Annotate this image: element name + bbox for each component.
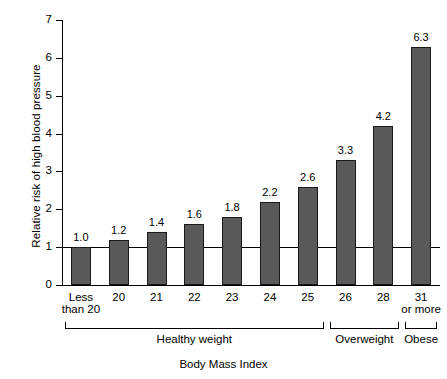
y-axis-line	[62, 20, 63, 286]
bar-value-label: 6.3	[401, 32, 441, 43]
bar[interactable]	[411, 47, 431, 286]
bar-value-label: 1.2	[99, 225, 139, 236]
y-axis-tick	[56, 134, 62, 135]
y-axis-tick-label: 4	[38, 128, 52, 140]
bar-value-label: 2.2	[250, 187, 290, 198]
y-axis-tick	[56, 20, 62, 21]
y-axis-tick-label: 2	[38, 203, 52, 215]
bar[interactable]	[71, 247, 91, 285]
category-bracket	[65, 322, 324, 329]
bar[interactable]	[147, 232, 167, 285]
bar-value-label: 1.6	[174, 209, 214, 220]
y-axis-tick	[56, 58, 62, 59]
bar[interactable]	[222, 217, 242, 285]
bar[interactable]	[184, 224, 204, 285]
bar-value-label: 1.0	[61, 232, 101, 243]
bar-value-label: 1.4	[137, 217, 177, 228]
bar[interactable]	[373, 126, 393, 285]
y-axis-tick-label: 3	[38, 165, 52, 177]
category-bracket	[330, 322, 400, 329]
bar[interactable]	[260, 202, 280, 285]
x-axis-tick-label: 31 or more	[397, 291, 445, 315]
bar-chart: Relative risk of high blood pressure 012…	[0, 0, 447, 379]
y-axis-tick	[56, 96, 62, 97]
bar[interactable]	[109, 240, 129, 285]
bar-value-label: 4.2	[363, 111, 403, 122]
bar-value-label: 2.6	[288, 172, 328, 183]
bar[interactable]	[336, 160, 356, 285]
y-axis-tick-label: 5	[38, 90, 52, 102]
bar[interactable]	[298, 187, 318, 285]
y-axis-tick-label: 6	[38, 52, 52, 64]
y-axis-tick-label: 0	[38, 279, 52, 291]
y-axis-title: Relative risk of high blood pressure	[30, 36, 42, 276]
y-axis-tick	[56, 171, 62, 172]
bar-value-label: 3.3	[326, 145, 366, 156]
y-axis-tick	[56, 285, 62, 286]
y-axis-tick-label: 1	[38, 241, 52, 253]
y-axis-tick-label: 7	[38, 14, 52, 26]
category-bracket-label: Obese	[365, 334, 447, 346]
y-axis-tick	[56, 209, 62, 210]
x-axis-title: Body Mass Index	[0, 358, 447, 370]
category-bracket	[405, 322, 437, 329]
x-axis-line	[62, 285, 440, 286]
bar-value-label: 1.8	[212, 202, 252, 213]
